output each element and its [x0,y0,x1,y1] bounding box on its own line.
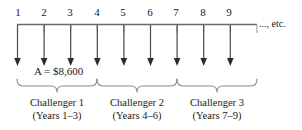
cash-flow-arrow-4 [94,25,101,66]
cash-flow-arrow-9 [227,25,234,66]
brace-challenger-3 [177,79,257,92]
cash-flow-arrow-5 [121,25,128,66]
brace-challenger-1 [17,79,97,92]
cash-flow-arrow-1 [14,25,21,66]
group-braces [17,79,257,92]
cash-flow-arrows [14,25,233,66]
cash-flow-diagram: 1 2 3 4 5 6 7 8 9 ..., etc. A = $8,600 C… [0,0,302,130]
diagram-vector-layer [0,0,302,130]
cash-flow-arrow-8 [200,25,207,66]
axis-tick-marks [18,25,257,33]
cash-flow-arrow-3 [67,25,74,66]
cash-flow-arrow-2 [41,25,48,66]
cash-flow-arrow-6 [147,25,154,66]
cash-flow-arrow-7 [174,25,181,66]
brace-challenger-2 [97,79,177,92]
